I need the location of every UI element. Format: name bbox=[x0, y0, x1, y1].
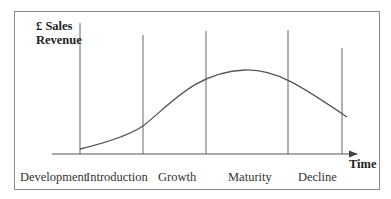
stage-label-decline: Decline bbox=[298, 170, 337, 185]
stage-label-growth: Growth bbox=[158, 170, 196, 185]
stage-label-introduction: Introduction bbox=[86, 170, 148, 185]
x-axis-label: Time bbox=[349, 157, 377, 172]
y-axis-label: £ Sales Revenue bbox=[36, 19, 82, 47]
stage-label-maturity: Maturity bbox=[228, 170, 272, 185]
y-axis-label-line-2: Revenue bbox=[36, 33, 82, 47]
y-axis-label-line-1: £ Sales bbox=[36, 19, 82, 33]
stage-label-development: Development bbox=[20, 170, 87, 185]
sales-revenue-curve bbox=[80, 70, 347, 149]
